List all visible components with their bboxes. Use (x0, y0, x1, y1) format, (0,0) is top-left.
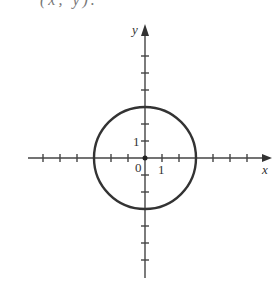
x-tick-label: 1 (158, 162, 165, 177)
x-axis-arrow-icon (262, 154, 272, 162)
x-axis-label: x (261, 162, 268, 177)
y-axis-arrow-icon (141, 24, 149, 36)
circle-plot: yx011 (0, 0, 276, 295)
origin-label: 0 (135, 160, 142, 175)
origin-point (143, 156, 148, 161)
y-tick-label: 1 (133, 134, 140, 149)
y-axis-label: y (130, 22, 138, 37)
